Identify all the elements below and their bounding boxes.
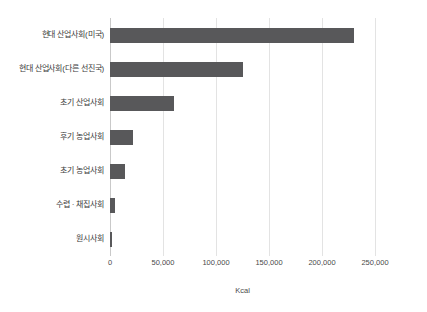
bar [110,198,115,213]
bar [110,62,243,77]
bar [110,96,174,111]
category-label: 수렵 · 채집사회 [56,188,104,222]
bar-row [110,154,125,188]
category-axis-labels: 현대 산업사회(미국)현대 산업사회(다른 선진국)초기 산업사회후기 농업사회… [0,18,104,256]
bar-row [110,120,133,154]
bar [110,130,133,145]
value-tick-label: 150,000 [255,258,282,267]
value-axis-tick-labels: 050,000100,000150,000200,000250,000 [110,258,375,272]
category-label: 현대 산업사회(다른 선진국) [19,52,104,86]
bar-row [110,18,354,52]
category-label: 원시사회 [76,222,104,256]
category-label: 후기 농업사회 [60,120,104,154]
bar [110,164,125,179]
bar-row [110,86,174,120]
category-label: 초기 농업사회 [60,154,104,188]
value-tick-label: 100,000 [202,258,229,267]
bar [110,28,354,43]
bar-row [110,52,243,86]
plot-area [110,18,375,256]
value-tick-label: 50,000 [152,258,175,267]
bar-chart: 현대 산업사회(미국)현대 산업사회(다른 선진국)초기 산업사회후기 농업사회… [0,0,427,312]
gridline [375,18,376,256]
category-label: 현대 산업사회(미국) [42,18,104,52]
category-label: 초기 산업사회 [60,86,104,120]
bar-series [110,18,375,256]
bar [110,232,112,247]
bar-row [110,222,112,256]
bar-row [110,188,115,222]
value-tick-label: 0 [108,258,112,267]
x-axis-title: Kcal [110,286,375,295]
value-tick-label: 250,000 [361,258,388,267]
value-tick-label: 200,000 [308,258,335,267]
